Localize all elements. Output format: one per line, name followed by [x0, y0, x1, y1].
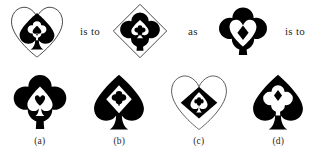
option-c[interactable]: (c) [159, 71, 239, 146]
inner-club-stem [118, 100, 120, 106]
option-c-label: (c) [193, 136, 204, 146]
figure-term-a [0, 0, 74, 62]
option-a-glyph [10, 71, 70, 135]
inner-club-stem [139, 32, 140, 36]
figure-term-b [106, 0, 174, 62]
answer-options-row: (a) (b) [0, 62, 318, 155]
option-d-label: (d) [272, 136, 284, 146]
term-a-glyph [4, 2, 70, 60]
analogy-prompt-row: is to as [0, 0, 318, 62]
term-c-glyph [214, 3, 272, 59]
connector-as: as [174, 0, 212, 62]
option-a[interactable]: (a) [0, 71, 80, 146]
option-b-glyph [90, 71, 148, 135]
option-d-glyph [249, 71, 307, 135]
option-d[interactable]: (d) [239, 71, 319, 146]
option-c-glyph [166, 71, 232, 135]
term-b-glyph [109, 2, 171, 60]
inner-club-stem [198, 103, 199, 107]
option-a-label: (a) [34, 136, 45, 146]
connector-is-to-first: is to [74, 0, 106, 62]
analogy-puzzle: is to as [0, 0, 318, 155]
figure-term-c [212, 0, 274, 62]
option-b-label: (b) [113, 136, 125, 146]
connector-is-to-second: is to [274, 0, 316, 62]
option-b[interactable]: (b) [80, 71, 160, 146]
